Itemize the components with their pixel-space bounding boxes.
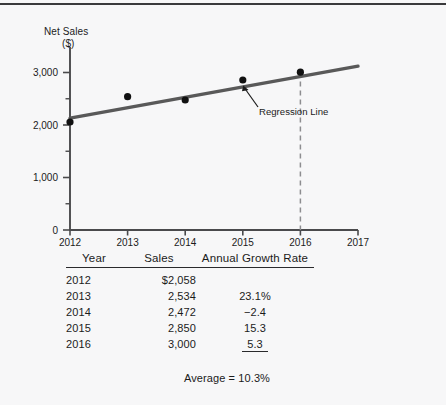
- table-row: 2015 2,850 15.3: [66, 319, 314, 335]
- x-tick-label-2015: 2015: [223, 237, 263, 248]
- average-inner: Average = 10.3%: [140, 372, 314, 384]
- table-row: 2012 $2,058: [66, 268, 314, 288]
- cell-year-2015: 2015: [66, 319, 122, 335]
- data-point-markers: [66, 69, 304, 126]
- average-label: Average =: [184, 372, 235, 384]
- cell-year-2013: 2013: [66, 287, 122, 303]
- table-head: Year Sales Annual Growth Rate: [66, 252, 314, 268]
- cell-sales-2012: $2,058: [122, 268, 196, 288]
- x-tick-label-2016: 2016: [280, 237, 320, 248]
- x-tick-label-2017: 2017: [338, 237, 378, 248]
- data-point-2012: [66, 118, 73, 125]
- regression-annotation-arrow: [242, 85, 258, 107]
- chart-canvas: [0, 12, 446, 252]
- regression-line-label: Regression Line: [259, 106, 328, 117]
- table-body: 2012 $2,058 2013 2,534 23.1% 2014 2,472 …: [66, 268, 314, 352]
- cell-growth-2015: 15.3: [196, 319, 314, 335]
- x-tick-label-2012: 2012: [50, 237, 90, 248]
- cell-growth-2013: 23.1%: [196, 287, 314, 303]
- x-tick-label-2014: 2014: [165, 237, 205, 248]
- y-tick-label-3000: 3,000: [22, 67, 58, 78]
- data-point-2015: [239, 76, 246, 83]
- scatter-chart: Net Sales ($): [0, 12, 446, 252]
- cell-sales-2015: 2,850: [122, 319, 196, 335]
- cell-growth-2016: 5.3: [196, 335, 314, 351]
- column-header-year: Year: [66, 252, 122, 268]
- sales-growth-table-wrap: Year Sales Annual Growth Rate 2012 $2,05…: [0, 252, 446, 405]
- figure-root: Net Sales ($): [0, 0, 446, 405]
- data-point-2014: [182, 96, 189, 103]
- cell-sales-2013: 2,534: [122, 287, 196, 303]
- cell-growth-2016-value: 5.3: [242, 338, 268, 352]
- data-point-2016: [297, 69, 304, 76]
- data-point-2013: [124, 93, 131, 100]
- table-row: 2014 2,472 −2.4: [66, 303, 314, 319]
- cell-growth-2014: −2.4: [196, 303, 314, 319]
- x-tick-label-2013: 2013: [108, 237, 148, 248]
- column-header-annual-growth-rate: Annual Growth Rate: [196, 252, 314, 268]
- sales-growth-table: Year Sales Annual Growth Rate 2012 $2,05…: [66, 252, 314, 351]
- table-row: 2013 2,534 23.1%: [66, 287, 314, 303]
- average-value: 10.3%: [238, 372, 270, 384]
- cell-sales-2014: 2,472: [122, 303, 196, 319]
- exhibit-top-rule: [0, 3, 446, 5]
- cell-sales-2016: 3,000: [122, 335, 196, 351]
- y-tick-label-1000: 1,000: [22, 172, 58, 183]
- table-header-row: Year Sales Annual Growth Rate: [66, 252, 314, 268]
- cell-year-2014: 2014: [66, 303, 122, 319]
- y-tick-label-0: 0: [22, 225, 58, 236]
- table-row: 2016 3,000 5.3: [66, 335, 314, 351]
- column-header-sales: Sales: [122, 252, 196, 268]
- cell-growth-2012: [196, 268, 314, 288]
- y-tick-label-2000: 2,000: [22, 120, 58, 131]
- cell-year-2016: 2016: [66, 335, 122, 351]
- cell-year-2012: 2012: [66, 268, 122, 288]
